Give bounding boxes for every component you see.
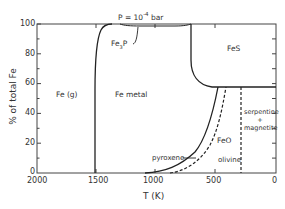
y-ticks-right [272, 39, 276, 158]
x-tick-500: 500 [206, 177, 221, 185]
pressure-annotation: P = 10-4 bar [118, 12, 163, 21]
fe-gas-metal-boundary [95, 24, 112, 173]
region-fe-metal: Fe metal [115, 91, 147, 99]
x-tick-0: 0 [272, 177, 277, 185]
region-serpentine-magnetite: serpentine + magnetite [244, 109, 276, 132]
y-tick-80: 80 [25, 50, 35, 58]
olivine-label: olivine [218, 157, 241, 164]
y-tick-100: 100 [20, 20, 35, 28]
region-fes: FeS [227, 45, 240, 53]
y-ticks-left [37, 24, 41, 158]
region-fe-gas: Fe (g) [56, 91, 78, 99]
fe3p-label: Fe3P [111, 40, 127, 50]
x-axis-label: T (K) [143, 192, 164, 201]
y-tick-0: 0 [30, 168, 35, 176]
y-tick-40: 40 [25, 109, 35, 117]
x-tick-1000: 1000 [143, 177, 163, 185]
x-tick-2000: 2000 [27, 177, 47, 185]
pyroxene-label: pyroxene [152, 155, 184, 162]
y-tick-60: 60 [25, 79, 35, 87]
y-tick-20: 20 [25, 139, 35, 147]
fe3p-pointer [133, 27, 138, 44]
x-tick-1500: 1500 [88, 177, 108, 185]
feo-label: FeO [217, 137, 231, 145]
y-axis-label: % of total Fe [9, 62, 18, 132]
fes-boundary [191, 24, 276, 87]
